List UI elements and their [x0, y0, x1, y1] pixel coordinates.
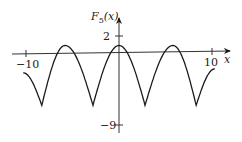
y-axis-label-arg: (x): [104, 10, 119, 23]
y-tick-label-neg9: −9: [100, 119, 116, 132]
y-tick-label-2: 2: [103, 30, 110, 43]
y-axis-label-main: F: [90, 10, 99, 23]
x-axis: [12, 51, 230, 54]
x-tick-label-10: 10: [204, 56, 218, 69]
x-axis-label: x: [224, 53, 231, 66]
x-tick-label-neg10: −10: [16, 58, 39, 71]
y-axis-label: F5(x): [90, 10, 119, 25]
chart-canvas: −10 10 x 2 −9 F5(x): [0, 0, 242, 142]
